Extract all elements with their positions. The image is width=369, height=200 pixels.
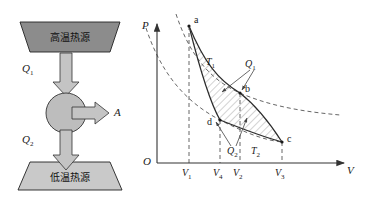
x-tick-v2: V2 xyxy=(233,167,243,181)
cycle-area-hatched xyxy=(189,26,282,142)
origin-label: O xyxy=(143,155,151,167)
engine-q1-label: Q1 xyxy=(22,62,33,77)
isotherm-t1-sub: 1 xyxy=(212,62,216,70)
engine-q1-letter: Q xyxy=(22,62,30,74)
hot-reservoir-label: 高温热源 xyxy=(36,29,104,44)
engine-q1-sub: 1 xyxy=(30,69,34,77)
isotherm-t1-label: T1 xyxy=(206,56,215,70)
point-b-label: b xyxy=(245,83,250,94)
work-output-label: A xyxy=(114,106,121,118)
pv-q1-label: Q1 xyxy=(245,58,256,72)
pv-diagram: P V O a b c d T1 T2 Q1 Q2 V1 V4 V2 xyxy=(132,0,369,200)
engine-q2-letter: Q xyxy=(22,133,30,145)
point-a-marker xyxy=(187,24,190,27)
x-tick-v1: V1 xyxy=(182,167,192,181)
pv-q1-sub: 1 xyxy=(252,64,256,72)
x-tick-v1-sub: 1 xyxy=(188,173,192,181)
engine-q2-sub: 2 xyxy=(30,140,34,148)
engine-diagram: 高温热源 低温热源 Q1 Q2 A xyxy=(0,0,140,200)
figure-root: 高温热源 低温热源 Q1 Q2 A xyxy=(0,0,369,200)
point-c-marker xyxy=(280,140,283,143)
x-tick-v3-sub: 3 xyxy=(281,173,285,181)
pv-svg xyxy=(132,0,369,200)
x-axis-label: V xyxy=(347,164,354,176)
heat-in-arrow xyxy=(53,53,79,96)
x-tick-v2-sub: 2 xyxy=(239,173,243,181)
point-c-label: c xyxy=(287,133,291,144)
pv-q2-sub: 2 xyxy=(234,151,238,159)
point-d-marker xyxy=(218,118,221,121)
x-tick-v4-sub: 4 xyxy=(219,173,223,181)
isotherm-t2-label: T2 xyxy=(251,145,260,159)
point-a-label: a xyxy=(194,14,198,25)
q2-leader-left xyxy=(216,122,231,146)
y-axis-label: P xyxy=(142,19,149,31)
x-tick-v3: V3 xyxy=(275,167,285,181)
engine-q2-label: Q2 xyxy=(22,133,33,148)
point-d-label: d xyxy=(207,116,212,127)
point-b-marker xyxy=(238,91,241,94)
pv-q2-label: Q2 xyxy=(227,145,238,159)
cold-reservoir-label: 低温热源 xyxy=(36,169,104,184)
x-tick-v4: V4 xyxy=(213,167,223,181)
isotherm-t2-sub: 2 xyxy=(257,151,261,159)
